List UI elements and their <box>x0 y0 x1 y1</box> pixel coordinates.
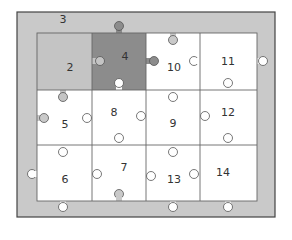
piece-label-2: 2 <box>67 61 74 74</box>
piece-label-13: 13 <box>167 173 181 186</box>
frame-label: 3 <box>60 13 67 26</box>
piece-label-6: 6 <box>62 173 69 186</box>
piece-label-12: 12 <box>221 106 235 119</box>
puzzle-diagram: 3 2 4 10 11 5 8 9 12 6 7 13 14 <box>0 0 292 240</box>
piece-label-8: 8 <box>111 106 118 119</box>
pieces-row1-fill <box>146 33 257 90</box>
piece-label-14: 14 <box>216 166 230 179</box>
piece-label-9: 9 <box>170 117 177 130</box>
piece-label-5: 5 <box>62 118 69 131</box>
piece-label-7: 7 <box>121 161 128 174</box>
piece-2-fill <box>37 33 92 90</box>
piece-label-4: 4 <box>122 50 129 63</box>
piece-label-10: 10 <box>167 61 181 74</box>
piece-label-11: 11 <box>221 55 235 68</box>
